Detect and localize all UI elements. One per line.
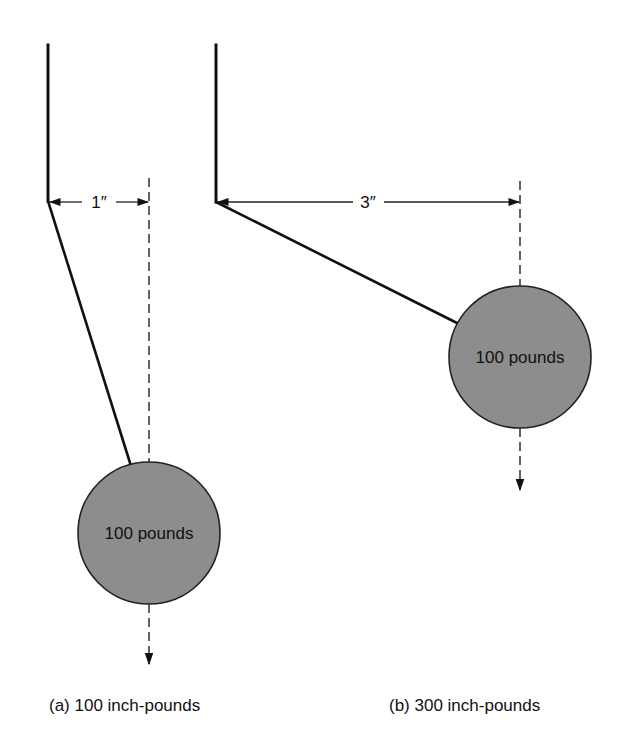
distance-label-a: 1″ xyxy=(91,193,106,212)
distance-label-b: 3″ xyxy=(360,193,375,212)
caption-a: (a) 100 inch-pounds xyxy=(49,696,200,715)
torque-diagram: 1″ 100 pounds (a) 100 inch-pounds 3″ 100… xyxy=(0,0,623,734)
panel-a: 1″ 100 pounds (a) 100 inch-pounds xyxy=(48,45,220,715)
weight-label-b: 100 pounds xyxy=(476,348,565,367)
lever-arm-b xyxy=(216,202,459,324)
panel-b: 3″ 100 pounds (b) 300 inch-pounds xyxy=(216,45,591,715)
weight-label-a: 100 pounds xyxy=(105,524,194,543)
caption-b: (b) 300 inch-pounds xyxy=(389,696,540,715)
lever-arm-a xyxy=(48,201,131,466)
